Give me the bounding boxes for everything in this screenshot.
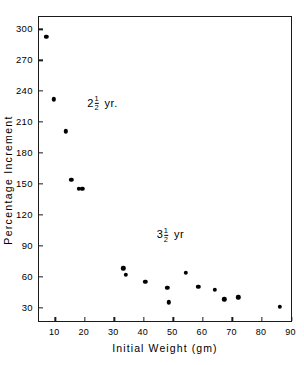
y-tick-mark	[39, 29, 43, 30]
x-tick-mark	[202, 317, 203, 321]
x-tick-mark	[173, 317, 174, 321]
data-point	[278, 304, 282, 308]
fraction-denominator: 2	[94, 103, 99, 112]
fraction-denominator: 2	[164, 234, 169, 243]
y-tick-mark	[39, 121, 43, 122]
annotation-whole-number: 2	[87, 96, 94, 108]
x-tick-label: 40	[138, 327, 149, 337]
annotation-whole-number: 3	[157, 228, 164, 240]
data-point	[236, 295, 240, 299]
y-tick-label: 90	[3, 239, 33, 250]
y-tick-mark	[39, 91, 43, 92]
y-tick-mark	[39, 183, 43, 184]
y-tick-label: 120	[3, 208, 33, 219]
data-point	[184, 270, 188, 274]
x-tick-mark	[114, 317, 115, 321]
annotation-fraction: 12	[164, 227, 169, 243]
data-point	[167, 300, 171, 304]
data-point	[213, 288, 217, 292]
annotation-unit: yr.	[105, 96, 118, 108]
series-annotation: 212yr.	[87, 95, 117, 111]
data-point	[143, 280, 147, 284]
y-tick-mark	[39, 276, 43, 277]
x-tick-mark	[291, 317, 292, 321]
data-point	[80, 187, 84, 191]
data-point	[165, 286, 169, 290]
data-point	[123, 272, 127, 276]
y-tick-mark	[39, 152, 43, 153]
y-tick-mark	[39, 214, 43, 215]
y-tick-mark	[39, 307, 43, 308]
data-point	[69, 178, 73, 182]
data-point	[63, 129, 67, 133]
x-tick-label: 90	[285, 327, 296, 337]
x-tick-label: 20	[78, 327, 89, 337]
annotation-fraction: 12	[94, 95, 99, 111]
data-point	[52, 97, 56, 101]
series-annotation: 312yr	[157, 227, 184, 243]
x-tick-mark	[55, 317, 56, 321]
x-tick-mark	[143, 317, 144, 321]
y-tick-mark	[39, 245, 43, 246]
plot-area: 212yr.312yr	[38, 16, 292, 322]
y-tick-label: 270	[3, 54, 33, 65]
y-tick-label: 30	[3, 301, 33, 312]
x-axis-label: Initial Weight (gm)	[38, 342, 292, 354]
y-tick-label: 300	[3, 23, 33, 34]
x-tick-label: 30	[108, 327, 119, 337]
x-tick-mark	[261, 317, 262, 321]
y-tick-label: 210	[3, 116, 33, 127]
x-tick-mark	[232, 317, 233, 321]
y-tick-label: 180	[3, 147, 33, 158]
x-tick-label: 60	[197, 327, 208, 337]
data-point	[222, 297, 226, 301]
x-tick-mark	[84, 317, 85, 321]
figure: Percentage Increment 3060901201501802102…	[0, 0, 304, 365]
x-tick-label: 70	[226, 327, 237, 337]
data-point	[121, 266, 125, 270]
fraction-numerator: 1	[164, 227, 169, 235]
y-tick-label: 240	[3, 85, 33, 96]
y-tick-label: 60	[3, 270, 33, 281]
x-tick-label: 10	[49, 327, 60, 337]
y-tick-label: 150	[3, 177, 33, 188]
data-point	[196, 285, 200, 289]
data-point	[44, 34, 48, 38]
x-tick-label: 80	[256, 327, 267, 337]
fraction-numerator: 1	[94, 95, 99, 103]
y-tick-mark	[39, 60, 43, 61]
x-tick-label: 50	[167, 327, 178, 337]
annotation-unit: yr	[174, 228, 184, 240]
